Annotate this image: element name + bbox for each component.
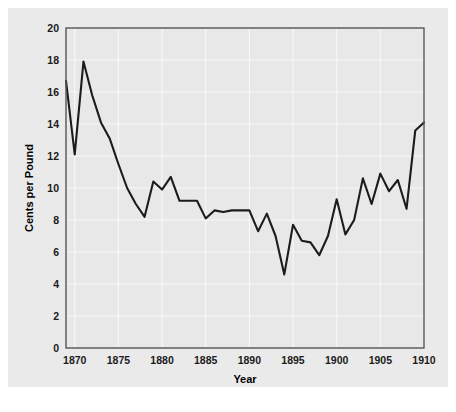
x-tick-label: 1885: [194, 354, 218, 366]
y-tick-label: 0: [53, 342, 59, 354]
line-chart: 02468101214161820 1870187518801885189018…: [0, 0, 456, 412]
x-tick-label: 1890: [238, 354, 262, 366]
x-axis-tick-labels: 187018751880188518901895190019051910: [63, 354, 436, 366]
y-tick-label: 2: [53, 310, 59, 322]
y-tick-label: 4: [53, 278, 59, 290]
x-tick-label: 1905: [369, 354, 393, 366]
y-tick-label: 14: [47, 118, 59, 130]
y-axis-title: Cents per Pound: [23, 144, 35, 232]
y-tick-label: 16: [47, 86, 59, 98]
x-tick-label: 1910: [412, 354, 436, 366]
y-tick-label: 10: [47, 182, 59, 194]
y-axis-tick-labels: 02468101214161820: [47, 22, 59, 354]
x-tick-label: 1875: [107, 354, 131, 366]
x-tick-label: 1880: [150, 354, 174, 366]
y-tick-label: 8: [53, 214, 59, 226]
y-tick-label: 18: [47, 54, 59, 66]
x-tick-label: 1900: [325, 354, 349, 366]
x-tick-label: 1870: [63, 354, 87, 366]
y-tick-label: 12: [47, 150, 59, 162]
y-tick-label: 20: [47, 22, 59, 34]
x-axis-title: Year: [233, 373, 257, 385]
chart-figure: 02468101214161820 1870187518801885189018…: [0, 0, 456, 412]
plot-container: 02468101214161820 1870187518801885189018…: [0, 0, 456, 412]
y-tick-label: 6: [53, 246, 59, 258]
x-tick-label: 1895: [281, 354, 305, 366]
